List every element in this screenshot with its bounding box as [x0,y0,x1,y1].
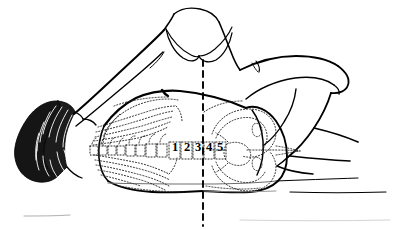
vertebra-label-2: 2 [184,140,190,154]
vertebra-label-3: 3 [195,140,201,154]
vertebra-label-1: 1 [172,140,178,154]
anatomical-figure: 1 2 3 4 5 [0,0,398,230]
figure-canvas: 1 2 3 4 5 [0,0,398,230]
vertebra-label-4: 4 [206,140,213,154]
vertebra-label-5: 5 [217,140,223,154]
